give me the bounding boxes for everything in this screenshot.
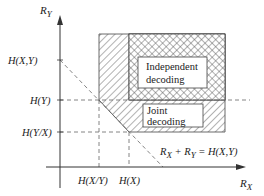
joint-label-line1: Joint [147,105,168,116]
rate-region-diagram: Independent decoding Joint decoding RY R… [0,0,264,196]
independent-label-line1: Independent [146,61,198,72]
y-axis-label: RY [39,4,53,19]
x-axis-label: RX [239,177,253,192]
tick-label-hy: H(Y) [29,95,51,107]
independent-label-line2: decoding [146,74,185,85]
sum-rate-equation: RX + RY = H(X,Y) [159,146,238,160]
x-axis-arrow-icon [236,164,246,170]
tick-label-hxy: H(X,Y) [7,55,38,67]
y-axis-arrow-icon [57,15,63,25]
tick-label-hx-given-y: H(X/Y) [77,175,108,187]
joint-label-line2: decoding [147,116,186,127]
tick-label-hy-given-x: H(Y/X) [21,127,52,139]
tick-label-hx: H(X) [118,175,140,187]
